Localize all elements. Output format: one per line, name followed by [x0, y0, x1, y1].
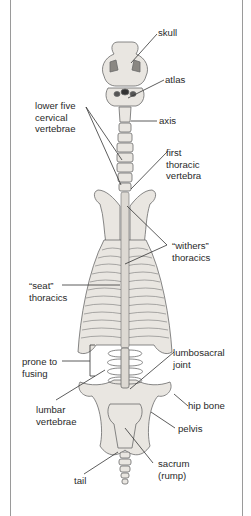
- thoracic-spine: [121, 192, 129, 348]
- label-lower-cervical: lower five cervical vertebrae: [35, 100, 76, 135]
- right-scapula: [130, 190, 156, 246]
- label-atlas: atlas: [165, 74, 185, 86]
- tail-vertebrae: [119, 452, 131, 484]
- label-first-thoracic: first thoracic vertebra: [166, 147, 201, 182]
- label-lumbar-vertebrae: lumbar vertebrae: [36, 404, 77, 427]
- label-pelvis: pelvis: [178, 423, 203, 435]
- label-prone-to-fusing: prone to fusing: [22, 356, 57, 379]
- atlas-bone: [106, 88, 144, 106]
- left-scapula: [94, 190, 120, 246]
- label-sacrum: sacrum (rump): [158, 458, 189, 481]
- label-withers-thoracics: “withers” thoracics: [172, 240, 210, 263]
- label-lumbosacral-joint: lumbosacral joint: [173, 347, 225, 370]
- label-seat-thoracics: “seat” thoracics: [29, 280, 67, 303]
- horse-skeleton-illustration: [0, 0, 251, 516]
- label-skull: skull: [158, 27, 177, 39]
- label-tail: tail: [74, 475, 86, 487]
- label-axis: axis: [159, 115, 176, 127]
- skull-bone: [102, 42, 147, 86]
- axis-bone: [119, 107, 131, 122]
- label-hip-bone: hip bone: [188, 400, 225, 412]
